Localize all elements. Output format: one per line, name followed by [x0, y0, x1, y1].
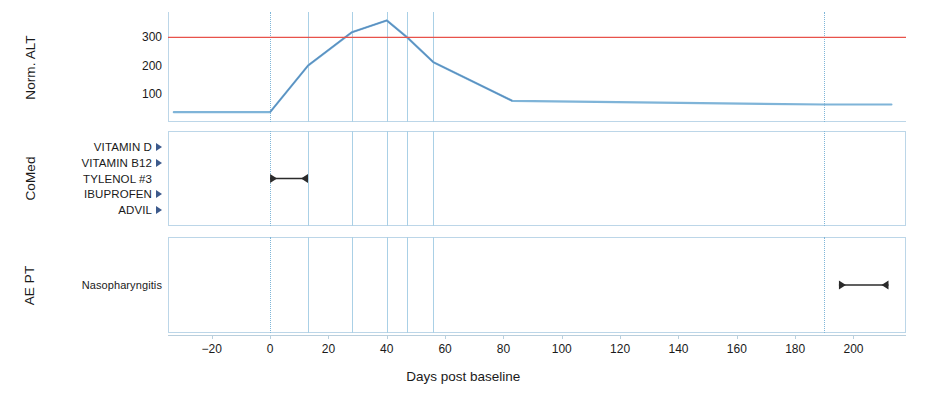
alt-y-tick-200: 200	[122, 59, 162, 73]
alt-y-tick-100: 100	[122, 87, 162, 101]
clinical-patient-profile-figure: Norm. ALT CoMed AE PT 100200300 VITAMIN …	[0, 0, 929, 402]
panel-norm-alt	[168, 12, 906, 122]
x-tick-mark--20	[212, 335, 213, 339]
comed-row-label: VITAMIN D	[0, 141, 152, 153]
x-tick-label-40: 40	[380, 342, 393, 356]
x-tick-label--20: −20	[202, 342, 222, 356]
comed-ongoing-marker-icon	[156, 143, 162, 151]
comed-ongoing-marker-icon	[156, 190, 162, 198]
x-tick-mark-80	[503, 335, 504, 339]
x-tick-label-140: 140	[668, 342, 688, 356]
x-tick-mark-200	[853, 335, 854, 339]
x-tick-label-200: 200	[843, 342, 863, 356]
x-tick-mark-140	[678, 335, 679, 339]
ae-duration-bar	[839, 281, 889, 290]
comed-row-label: IBUPROFEN	[0, 188, 152, 200]
x-tick-mark-20	[328, 335, 329, 339]
x-tick-label-160: 160	[727, 342, 747, 356]
x-tick-mark-100	[562, 335, 563, 339]
x-tick-mark-40	[387, 335, 388, 339]
comed-row-label: TYLENOL #3	[0, 173, 152, 185]
comed-ongoing-marker-icon	[156, 159, 162, 167]
x-tick-label-180: 180	[785, 342, 805, 356]
comed-duration-bar	[270, 174, 308, 183]
x-tick-mark-160	[737, 335, 738, 339]
x-tick-label-120: 120	[610, 342, 630, 356]
panel-comed	[168, 131, 906, 226]
x-tick-label-80: 80	[497, 342, 510, 356]
x-tick-mark-120	[620, 335, 621, 339]
ae-row-label: Nasopharyngitis	[0, 279, 162, 291]
alt-plot-svg	[168, 12, 906, 122]
x-tick-label-60: 60	[438, 342, 451, 356]
alt-y-tick-300: 300	[122, 30, 162, 44]
panel-title-norm-alt: Norm. ALT	[23, 35, 38, 99]
panel-ae-pt	[168, 237, 906, 333]
x-tick-label-0: 0	[267, 342, 274, 356]
x-tick-mark-60	[445, 335, 446, 339]
comed-row-label: VITAMIN B12	[0, 157, 152, 169]
comed-ongoing-marker-icon	[156, 206, 162, 214]
x-tick-mark-0	[270, 335, 271, 339]
x-tick-label-20: 20	[322, 342, 335, 356]
x-tick-label-100: 100	[552, 342, 572, 356]
ae-plot-svg	[168, 237, 906, 333]
x-tick-mark-180	[795, 335, 796, 339]
comed-plot-svg	[168, 131, 906, 226]
x-axis-title: Days post baseline	[406, 369, 520, 384]
comed-row-label: ADVIL	[0, 204, 152, 216]
